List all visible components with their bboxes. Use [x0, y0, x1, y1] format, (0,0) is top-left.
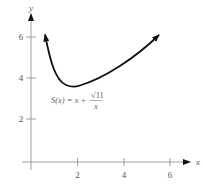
y-axis-label: y: [28, 3, 33, 13]
equation-numerator: √11: [91, 90, 104, 100]
x-axis-label: x: [195, 157, 200, 167]
x-tick-label: 2: [75, 170, 80, 180]
axes: [22, 14, 190, 170]
x-tick-label: 4: [122, 170, 127, 180]
chart: 2 4 6 6 4 2 x y S(x) = x + √11 x: [0, 0, 203, 187]
equation-lhs: S(x) = x +: [51, 95, 86, 105]
function-annotation: S(x) = x + √11 x: [51, 90, 104, 111]
equation-denominator: x: [93, 101, 98, 111]
function-curve: [45, 35, 159, 87]
y-tick-label: 6: [19, 32, 24, 42]
y-tick-label: 4: [19, 73, 24, 83]
x-tick-label: 6: [168, 170, 173, 180]
y-tick-label: 2: [19, 114, 24, 124]
